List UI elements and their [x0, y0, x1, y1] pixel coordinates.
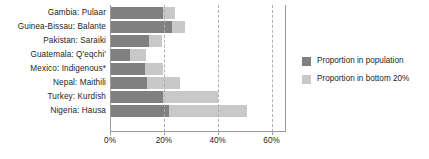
legend-label-population: Proportion in population [317, 56, 404, 66]
bar-row: Turkey: Kurdish [0, 90, 290, 104]
bar-group [110, 49, 285, 61]
bar-segment-bottom20 [130, 49, 146, 61]
tick-mark [272, 132, 273, 135]
tick-mark [164, 132, 165, 135]
category-label: Gambia: Pulaar [48, 6, 106, 20]
bar-segment-bottom20 [172, 21, 185, 33]
bar-group [110, 91, 285, 103]
category-label: Guinea-Bissau: Balante [18, 20, 106, 34]
bar-group [110, 35, 285, 47]
tick-mark [218, 132, 219, 135]
x-axis-tick-label: 20% [156, 136, 172, 145]
x-axis-tick-label: 60% [263, 136, 279, 145]
bar-row: Nepal: Maithili [0, 76, 290, 90]
bar-rows: Gambia: PulaarGuinea-Bissau: BalantePaki… [0, 6, 290, 118]
category-label: Turkey: Kurdish [47, 90, 106, 104]
bar-group [110, 21, 285, 33]
category-label: Nepal: Maithili [53, 76, 106, 90]
bar-segment-population [110, 91, 163, 103]
legend-swatch-population [302, 57, 311, 66]
tick-mark [110, 132, 111, 135]
bar-segment-population [110, 35, 149, 47]
bar-segment-bottom20 [163, 91, 218, 103]
chart-container: Gambia: PulaarGuinea-Bissau: BalantePaki… [0, 0, 429, 159]
bar-segment-bottom20 [149, 35, 162, 47]
bar-segment-population [110, 77, 147, 89]
x-axis-tick-label: 40% [209, 136, 225, 145]
category-label: Guatemala: Q'eqchi' [30, 48, 106, 62]
bar-row: Nigeria: Hausa [0, 104, 290, 118]
bar-group [110, 7, 285, 19]
category-label: Pakistan: Saraiki [43, 34, 106, 48]
legend-label-bottom20: Proportion in bottom 20% [317, 74, 409, 84]
legend-item-population: Proportion in population [302, 56, 427, 66]
bar-row: Gambia: Pulaar [0, 6, 290, 20]
chart-legend: Proportion in population Proportion in b… [302, 56, 427, 92]
bar-segment-bottom20 [145, 63, 163, 75]
bar-segment-bottom20 [169, 105, 247, 117]
category-label: Nigeria: Hausa [50, 104, 106, 118]
category-label: Mexico: Indigenous* [30, 62, 106, 76]
bar-segment-population [110, 7, 163, 19]
bar-segment-population [110, 105, 169, 117]
plot-area: Gambia: PulaarGuinea-Bissau: BalantePaki… [0, 0, 290, 159]
bar-row: Guinea-Bissau: Balante [0, 20, 290, 34]
gridline [218, 5, 219, 132]
x-axis-tick-label: 0% [104, 136, 116, 145]
legend-swatch-bottom20 [302, 75, 311, 84]
gridline [272, 5, 273, 132]
legend-item-bottom20: Proportion in bottom 20% [302, 74, 427, 84]
bar-group [110, 105, 285, 117]
bar-segment-population [110, 49, 130, 61]
bar-group [110, 77, 285, 89]
bar-group [110, 63, 285, 75]
bar-segment-population [110, 63, 145, 75]
bar-row: Mexico: Indigenous* [0, 62, 290, 76]
gridline [164, 5, 165, 132]
bar-row: Guatemala: Q'eqchi' [0, 48, 290, 62]
bar-segment-population [110, 21, 172, 33]
bar-row: Pakistan: Saraiki [0, 34, 290, 48]
